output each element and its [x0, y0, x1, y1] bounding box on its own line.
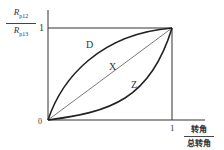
curve-label-d: D — [86, 40, 93, 50]
origin-label: 0 — [38, 118, 42, 126]
x-num: 转角 — [184, 124, 214, 135]
y-den-sub: p13 — [19, 31, 28, 37]
curve-label-z: Z — [131, 80, 137, 90]
y-axis-label: Rp12 Rp13 — [6, 7, 36, 40]
curve-label-x: X — [109, 62, 116, 72]
x-axis-label: 转角 总转角 — [184, 124, 214, 149]
x-tick-1: 1 — [170, 124, 175, 133]
x-den: 总转角 — [184, 138, 214, 149]
y-num-sub: p12 — [19, 13, 28, 19]
y-tick-1: 1 — [39, 23, 44, 33]
